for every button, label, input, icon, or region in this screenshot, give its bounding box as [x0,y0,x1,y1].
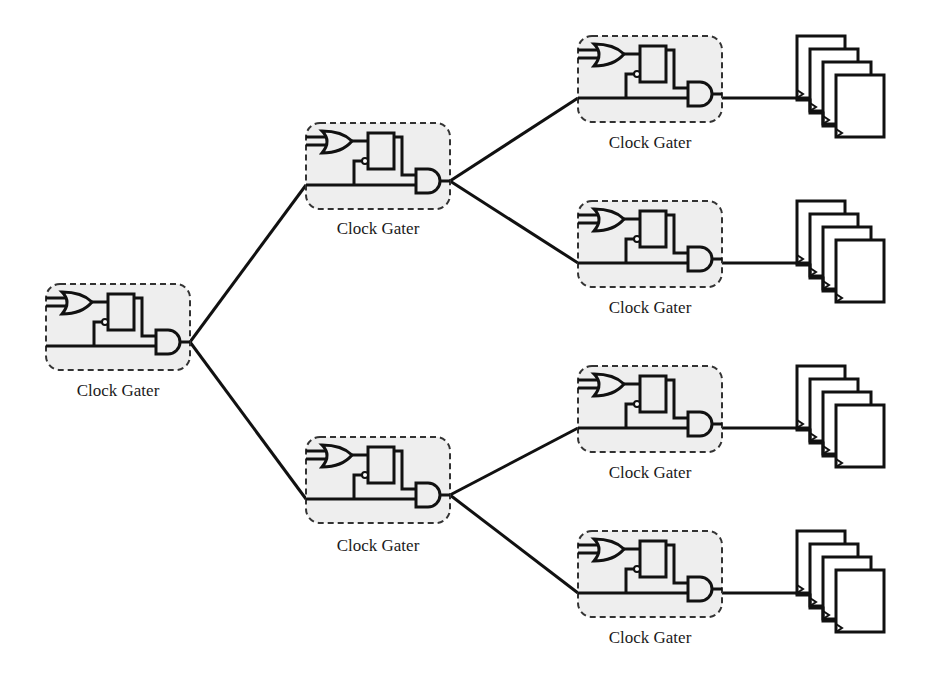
gater-label-l3-3: Clock Gater [609,463,692,482]
gater-label-l3-1: Clock Gater [609,133,692,152]
clock-gater-root [46,284,190,370]
flip-flop-bank-2 [797,201,884,302]
clock-tree-wires [190,98,797,593]
clock-gater-l2-top [306,123,450,209]
gater-label-l3-2: Clock Gater [609,298,692,317]
gater-label-l2-bottom: Clock Gater [337,536,420,555]
clock-gater-l2-bottom [306,437,450,523]
clock-gater-l3-2 [578,201,722,287]
clock-gater-l3-3 [578,366,722,452]
flip-flop-bank-3 [797,366,884,467]
flip-flop-bank-4 [797,531,884,632]
flip-flop-bank-1 [797,36,884,137]
gater-label-l2-top: Clock Gater [337,219,420,238]
gater-label-l3-4: Clock Gater [609,628,692,647]
clock-gating-tree-diagram: Clock Gater Clock Gater Clock Gater Cloc… [0,0,934,674]
gater-label-root: Clock Gater [77,381,160,400]
clock-gater-l3-1 [578,36,722,122]
clock-gater-l3-4 [578,531,722,617]
